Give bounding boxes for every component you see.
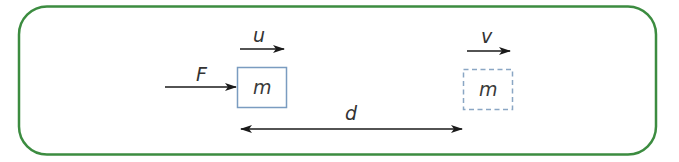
final-velocity-label: v — [481, 25, 493, 47]
displacement-label: d — [345, 102, 358, 124]
diagram-canvas: F u m v m d — [0, 0, 679, 162]
final-mass-label: m — [479, 78, 498, 100]
initial-mass-label: m — [253, 76, 272, 98]
initial-velocity-label: u — [253, 24, 265, 46]
force-label: F — [196, 63, 208, 85]
diagram-frame — [19, 7, 656, 155]
